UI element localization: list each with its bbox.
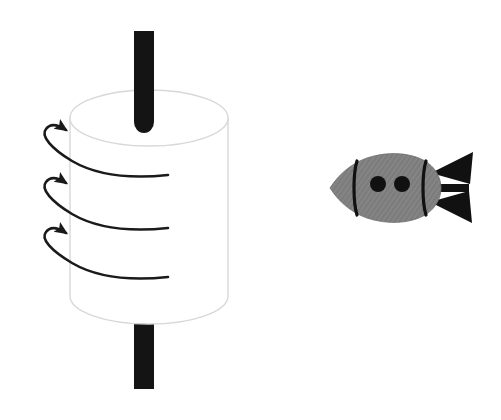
axle-top-segment: [134, 31, 154, 133]
cylinder-side-wall: [70, 118, 228, 324]
rocket-window-2: [394, 176, 410, 192]
physics-diagram: [0, 0, 501, 420]
diagram-canvas: [0, 0, 501, 420]
rocket-window-1: [370, 176, 386, 192]
